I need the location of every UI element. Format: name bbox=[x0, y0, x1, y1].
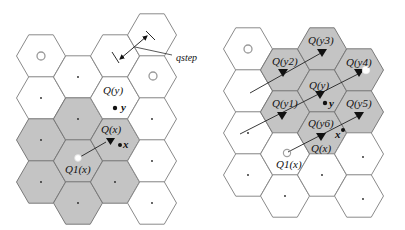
q-y2-label: Q(y2) bbox=[272, 55, 298, 68]
q-y4-label: Q(y4) bbox=[346, 56, 372, 69]
y-label: y bbox=[119, 101, 126, 113]
q1-x-point bbox=[75, 155, 82, 162]
point-x bbox=[341, 128, 345, 132]
x-label: x bbox=[334, 128, 341, 140]
q-x-label: Q(x) bbox=[101, 123, 121, 136]
q1-x-label: Q1(x) bbox=[276, 158, 302, 171]
q-y6-label: Q(y6) bbox=[308, 117, 334, 130]
x-label: x bbox=[122, 138, 129, 150]
q1-x-label: Q1(x) bbox=[65, 163, 91, 176]
q-y3-label: Q(y3) bbox=[308, 34, 334, 47]
qstep-label: qstep bbox=[176, 52, 197, 63]
q-x-label: Q(x) bbox=[311, 142, 331, 155]
point-x bbox=[118, 143, 122, 147]
q-y1-label: Q(y1) bbox=[272, 97, 298, 110]
y-label: y bbox=[327, 97, 334, 109]
q-y5-label: Q(y5) bbox=[346, 97, 372, 110]
q-y-label: Q(y) bbox=[309, 79, 329, 92]
hexagonal-lattice-figure: qstep Q(y) y Q(x) x Q1(x) bbox=[0, 0, 405, 230]
q-y-label: Q(y) bbox=[103, 84, 123, 97]
left-panel: qstep Q(y) y Q(x) x Q1(x) bbox=[17, 14, 198, 224]
point-y bbox=[113, 106, 117, 110]
right-panel: Q(y3) Q(y2) Q(y4) Q(y) y Q(y1) Q(y5) Q(y… bbox=[224, 28, 384, 217]
point-y bbox=[323, 101, 327, 105]
